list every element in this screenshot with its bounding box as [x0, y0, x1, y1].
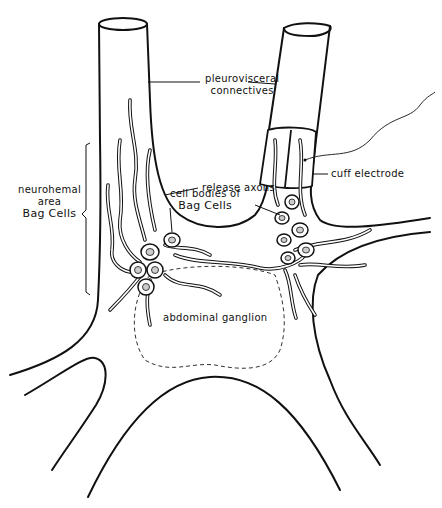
label-pleurovisceral-line1: pleurovisceral	[205, 73, 279, 85]
label-cell-bodies-line2: Bag Cells	[170, 200, 240, 212]
electrode-wire	[305, 92, 435, 160]
right-connective-top	[284, 23, 331, 36]
label-abdominal-ganglion: abdominal ganglion	[163, 312, 267, 324]
electrode-contact	[304, 159, 307, 162]
label-pleurovisceral-line2: connectives	[205, 85, 279, 97]
label-cuff-electrode: cuff electrode	[331, 168, 404, 180]
bottom-arch	[88, 377, 340, 497]
label-neurohemal-line1: neurohemal	[18, 184, 81, 196]
left-connective-top	[99, 18, 147, 30]
label-pleurovisceral: pleurovisceral connectives	[205, 73, 279, 97]
label-neurohemal-line3: Bag Cells	[18, 208, 81, 220]
diagram-canvas: pleurovisceral connectives release axons…	[0, 0, 442, 508]
label-neurohemal: neurohemal area Bag Cells	[18, 184, 81, 220]
left-lower-branch	[25, 358, 106, 470]
label-cell-bodies: cell bodies of Bag Cells	[170, 188, 240, 212]
right-connective-right	[311, 26, 430, 227]
neurohemal-bracket	[82, 143, 90, 295]
